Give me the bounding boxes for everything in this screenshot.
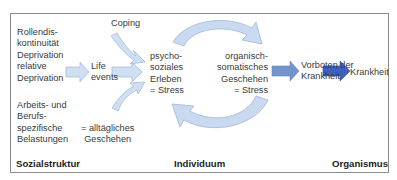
psychosocial-text: psycho- soziales Erleben = Stress (150, 51, 184, 97)
section-label-organism: Organismus (332, 158, 388, 169)
section-label-social-structure: Sozialstruktur (16, 158, 80, 169)
precursors-text: Vorboten der Krankheit (301, 60, 354, 83)
social-factors-bottom-text: Arbeits- und Berufs- spezifische Belastu… (17, 100, 68, 146)
arrow-social-to-life-events-icon (66, 62, 89, 82)
arrow-organic-to-precursors-icon (272, 61, 299, 81)
arrow-coping-icon (111, 33, 145, 64)
social-factors-top-text: Rollendis- kontinuität Deprivation relat… (17, 27, 63, 84)
cycle-arrow-top-icon (173, 20, 262, 46)
life-events-text: Life events (91, 61, 118, 84)
organic-somatic-text: organisch- somatisches Geschehen = Stres… (212, 51, 268, 97)
cycle-arrow-bottom-icon (172, 96, 268, 128)
arrow-everyday-icon (112, 82, 145, 111)
section-label-individual: Individuum (174, 158, 225, 169)
coping-text: Coping (111, 18, 140, 29)
everyday-events-text: = alltägliches Geschehen (81, 123, 134, 146)
disease-text: Krankheit (350, 67, 389, 78)
